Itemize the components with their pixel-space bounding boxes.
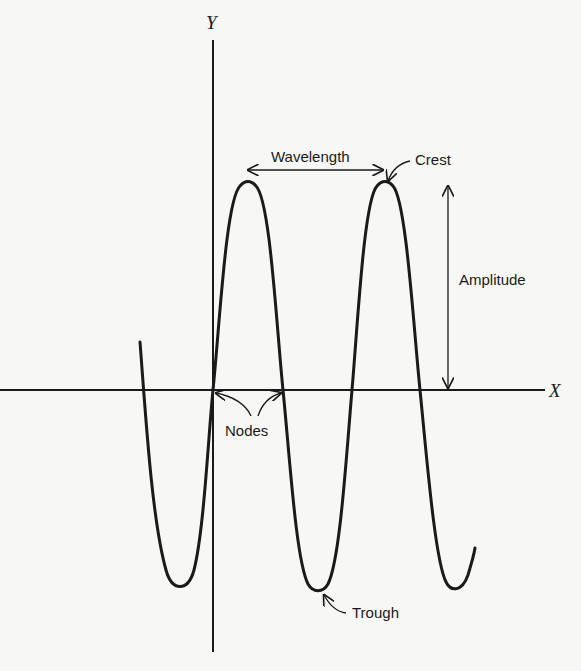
nodes-label: Nodes (225, 422, 268, 439)
x-axis-label: X (548, 380, 562, 401)
wave-curve (140, 182, 475, 591)
trough-label: Trough (352, 604, 399, 621)
wavelength-label: Wavelength (271, 148, 350, 165)
y-axis-label: Y (206, 12, 219, 33)
node-pointer-right (258, 393, 281, 416)
node-pointer-left (216, 393, 251, 416)
wave-diagram: Y X Wavelength Crest Amplitude Nodes Tro… (0, 0, 581, 671)
crest-label: Crest (415, 151, 452, 168)
amplitude-label: Amplitude (459, 271, 526, 288)
crest-pointer (388, 161, 410, 181)
trough-pointer (324, 595, 346, 613)
